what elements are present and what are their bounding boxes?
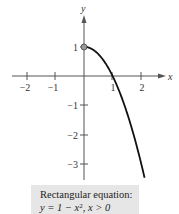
x-tick-label: −1	[48, 82, 59, 93]
y-axis-label: y	[80, 3, 86, 14]
caption-equation-suffix: , x > 0	[83, 202, 111, 213]
y-tick-label: −3	[67, 159, 78, 170]
y-tick-label: −2	[67, 130, 78, 141]
equation-caption: Rectangular equation: y = 1 − x2, x > 0	[31, 185, 139, 214]
caption-equation: y = 1 − x2, x > 0	[40, 201, 139, 214]
y-tick-labels: 1 −1 −2 −3	[67, 42, 78, 170]
caption-equation-prefix: y = 1 − x	[40, 202, 79, 213]
x-axis-label: x	[167, 71, 173, 82]
x-tick-label: −2	[20, 82, 31, 93]
caption-title: Rectangular equation:	[40, 188, 139, 201]
caption-exponent: 2	[79, 202, 83, 210]
x-axis-arrow-icon	[158, 74, 166, 79]
y-tick-label: −1	[67, 100, 78, 111]
x-tick-labels: −2 −1 1 2	[20, 82, 145, 93]
x-tick-label: 1	[111, 82, 116, 93]
curve-line	[84, 47, 145, 178]
y-tick-label: 1	[73, 42, 78, 53]
open-point-marker	[81, 44, 87, 50]
graph: x y −2 −1 1 2 1 −1 −2 −3	[0, 0, 179, 214]
y-axis-arrow-icon	[82, 15, 87, 23]
x-tick-label: 2	[140, 82, 145, 93]
